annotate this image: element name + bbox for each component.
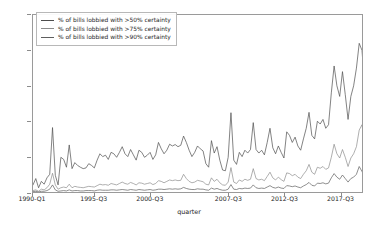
legend-item: % of bills lobbied with >50% certainty (41, 16, 171, 25)
legend-swatch-icon (41, 37, 54, 38)
x-tick-mark (32, 193, 33, 197)
x-tick-mark (341, 193, 342, 197)
y-tick-mark (27, 86, 31, 87)
legend-label: % of bills lobbied with >50% certainty (58, 16, 171, 25)
x-tick-mark (150, 193, 151, 197)
y-tick-mark (27, 14, 31, 15)
x-tick-mark (284, 193, 285, 197)
legend-item: % of bills lobbied with >75% certainty (41, 25, 171, 34)
series-line-2 (33, 159, 362, 192)
series-line-1 (33, 100, 362, 191)
chart-figure: 0.00.10.20.30.40.5 1990-Q11995-Q32000-Q3… (0, 0, 378, 231)
y-tick-mark (27, 193, 31, 194)
legend-label: % of bills lobbied with >75% certainty (58, 25, 171, 34)
y-tick-mark (27, 121, 31, 122)
x-tick-mark (228, 193, 229, 197)
legend-item: % of bills lobbied with >90% certainty (41, 33, 171, 42)
y-tick-mark (27, 50, 31, 51)
x-axis-label: quarter (0, 209, 378, 215)
y-tick-mark (27, 157, 31, 158)
legend: % of bills lobbied with >50% certainty %… (36, 12, 177, 46)
legend-label: % of bills lobbied with >90% certainty (58, 33, 171, 42)
legend-swatch-icon (41, 28, 54, 29)
legend-swatch-icon (41, 20, 54, 21)
x-tick-mark (94, 193, 95, 197)
